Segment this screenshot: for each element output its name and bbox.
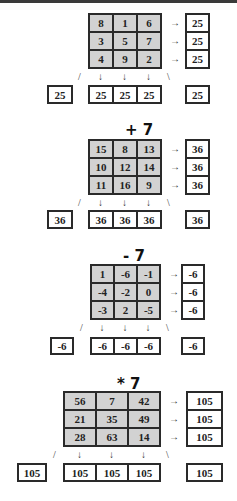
column-sum-box: 36: [112, 210, 138, 229]
grid-cell: 13: [136, 139, 162, 159]
diagonal-left-icon: /: [80, 323, 83, 333]
row-sum-box: 36: [185, 157, 210, 177]
arrow-right-icon: →: [169, 269, 179, 279]
column-sum-box: -6: [90, 337, 115, 355]
grid-cell: 8: [88, 13, 114, 33]
arrow-right-icon: →: [169, 432, 179, 442]
arrow-down-icon: ↓: [146, 72, 151, 82]
column-sum-box: 36: [136, 210, 162, 229]
grid-cell: 56: [63, 391, 97, 411]
grid-cell: 35: [95, 409, 129, 429]
diagonal-left-sum-box: 36: [47, 210, 73, 229]
arrow-right-icon: →: [170, 162, 180, 172]
row-sum-box: 105: [186, 427, 223, 447]
grid-cell: 8: [112, 139, 138, 159]
diagonal-left-sum-box: -6: [50, 337, 74, 355]
column-sum-box: 25: [136, 85, 162, 104]
arrow-down-icon: ↓: [146, 323, 151, 333]
arrow-right-icon: →: [169, 287, 179, 297]
grid-cell: 12: [112, 157, 138, 177]
diagonal-left-icon: /: [78, 72, 81, 82]
row-sum-box: 36: [185, 175, 210, 195]
column-sum-box: 36: [88, 210, 114, 229]
grid-cell: 5: [112, 31, 138, 51]
grid-cell: 63: [95, 427, 129, 447]
grid-cell: 14: [136, 157, 162, 177]
diagonal-right-icon: \: [166, 450, 169, 460]
operator-label: * 7: [117, 377, 141, 392]
arrow-right-icon: →: [170, 36, 180, 46]
row-sum-box: -6: [181, 300, 205, 320]
grid-cell: 16: [112, 175, 138, 195]
grid-cell: 42: [127, 391, 161, 411]
row-sum-box: -6: [181, 264, 205, 284]
grid-cell: 14: [127, 427, 161, 447]
arrow-right-icon: →: [169, 396, 179, 406]
arrow-down-icon: ↓: [146, 198, 151, 208]
grid-cell: 1: [112, 13, 138, 33]
column-sum-box: -6: [136, 337, 161, 355]
arrow-down-icon: ↓: [109, 450, 114, 460]
arrow-down-icon: ↓: [98, 198, 103, 208]
grid-cell: -4: [90, 282, 115, 302]
diagonal-right-sum-box: 105: [186, 463, 223, 482]
grid-cell: 3: [88, 31, 114, 51]
arrow-down-icon: ↓: [122, 72, 127, 82]
arrow-down-icon: ↓: [123, 323, 128, 333]
column-sum-box: 105: [95, 463, 129, 482]
diagonal-right-sum-box: 25: [185, 85, 210, 104]
arrow-down-icon: ↓: [122, 198, 127, 208]
arrow-right-icon: →: [170, 18, 180, 28]
diagonal-right-icon: \: [167, 72, 170, 82]
column-sum-box: -6: [113, 337, 138, 355]
row-sum-box: 105: [186, 391, 223, 411]
row-sum-box: -6: [181, 282, 205, 302]
row-sum-box: 25: [185, 13, 210, 33]
grid-cell: 9: [112, 49, 138, 69]
diagonal-right-sum-box: -6: [181, 337, 205, 355]
grid-cell: 2: [113, 300, 138, 320]
top-border: [0, 0, 237, 3]
grid-cell: -5: [136, 300, 161, 320]
arrow-down-icon: ↓: [77, 450, 82, 460]
grid-cell: 2: [136, 49, 162, 69]
grid-cell: 4: [88, 49, 114, 69]
grid-cell: 7: [95, 391, 129, 411]
arrow-right-icon: →: [170, 54, 180, 64]
grid-cell: 0: [136, 282, 161, 302]
grid-cell: 28: [63, 427, 97, 447]
grid-cell: 15: [88, 139, 114, 159]
operator-label: + 7: [125, 123, 153, 138]
grid-cell: 7: [136, 31, 162, 51]
grid-cell: -6: [113, 264, 138, 284]
diagonal-right-icon: \: [166, 323, 169, 333]
grid-cell: -2: [113, 282, 138, 302]
grid-cell: 6: [136, 13, 162, 33]
arrow-right-icon: →: [170, 180, 180, 190]
grid-cell: 9: [136, 175, 162, 195]
diagonal-left-icon: /: [78, 198, 81, 208]
diagonal-left-icon: /: [53, 450, 56, 460]
row-sum-box: 36: [185, 139, 210, 159]
grid-cell: -1: [136, 264, 161, 284]
arrow-down-icon: ↓: [98, 72, 103, 82]
grid-cell: 49: [127, 409, 161, 429]
arrow-right-icon: →: [169, 305, 179, 315]
operator-label: - 7: [123, 249, 145, 264]
column-sum-box: 105: [63, 463, 97, 482]
row-sum-box: 25: [185, 49, 210, 69]
diagonal-left-sum-box: 105: [17, 463, 47, 482]
grid-cell: 1: [90, 264, 115, 284]
diagonal-right-icon: \: [167, 198, 170, 208]
column-sum-box: 105: [127, 463, 161, 482]
arrow-down-icon: ↓: [141, 450, 146, 460]
row-sum-box: 25: [185, 31, 210, 51]
grid-cell: -3: [90, 300, 115, 320]
arrow-right-icon: →: [170, 144, 180, 154]
grid-cell: 11: [88, 175, 114, 195]
diagonal-right-sum-box: 36: [185, 210, 210, 229]
diagonal-left-sum-box: 25: [47, 85, 73, 104]
grid-cell: 10: [88, 157, 114, 177]
column-sum-box: 25: [88, 85, 114, 104]
grid-cell: 21: [63, 409, 97, 429]
